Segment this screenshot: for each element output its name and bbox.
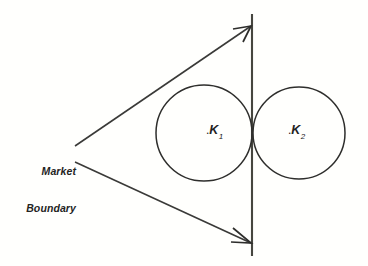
circle-k1 bbox=[156, 85, 252, 181]
upper-boundary-leader-line bbox=[75, 26, 251, 146]
market-boundary-diagram: Market Boundary .K1 .K2 bbox=[0, 0, 368, 266]
lower-boundary-leader-line bbox=[75, 162, 251, 243]
circle-k2-label: .K2 bbox=[288, 123, 305, 140]
market-boundary-label: Market Boundary bbox=[8, 140, 76, 239]
k1-label-letter: K bbox=[209, 123, 218, 137]
k2-label-letter: K bbox=[291, 123, 300, 137]
k1-label-subscript: 1 bbox=[219, 132, 223, 141]
k2-label-subscript: 2 bbox=[301, 132, 305, 141]
market-boundary-label-line1: Market bbox=[8, 165, 76, 177]
market-boundary-label-line2: Boundary bbox=[8, 202, 76, 214]
circle-k1-label: .K1 bbox=[206, 123, 223, 140]
